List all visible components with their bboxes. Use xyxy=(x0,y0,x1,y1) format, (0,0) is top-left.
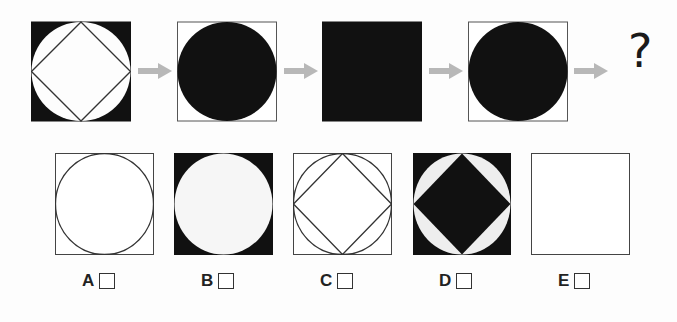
option-e-figure[interactable] xyxy=(531,153,630,255)
arrow-right-icon xyxy=(284,63,318,79)
arrow-right-icon xyxy=(429,63,463,79)
option-d[interactable]: D xyxy=(439,271,472,291)
option-a-checkbox[interactable] xyxy=(99,273,115,289)
option-letter: C xyxy=(320,271,332,291)
option-e[interactable]: E xyxy=(558,271,590,291)
arrow-right-icon xyxy=(574,63,608,79)
option-c-figure[interactable] xyxy=(293,153,392,255)
option-b-checkbox[interactable] xyxy=(218,273,234,289)
sequence-figure-1 xyxy=(31,21,131,122)
option-letter: B xyxy=(201,271,213,291)
arrow-right-icon xyxy=(138,63,172,79)
option-e-checkbox[interactable] xyxy=(574,273,590,289)
option-letter: D xyxy=(439,271,451,291)
option-b-figure[interactable] xyxy=(174,153,273,255)
option-a[interactable]: A xyxy=(82,271,115,291)
option-c[interactable]: C xyxy=(320,271,353,291)
option-letter: E xyxy=(558,271,569,291)
question-mark: ? xyxy=(628,28,652,74)
sequence-figure-2 xyxy=(177,21,277,122)
sequence-figure-4 xyxy=(468,21,568,122)
option-d-checkbox[interactable] xyxy=(456,273,472,289)
option-b[interactable]: B xyxy=(201,271,234,291)
sequence-figure-3 xyxy=(322,21,422,122)
option-letter: A xyxy=(82,271,94,291)
option-c-checkbox[interactable] xyxy=(337,273,353,289)
option-a-figure[interactable] xyxy=(55,153,154,255)
option-d-figure[interactable] xyxy=(413,153,511,255)
